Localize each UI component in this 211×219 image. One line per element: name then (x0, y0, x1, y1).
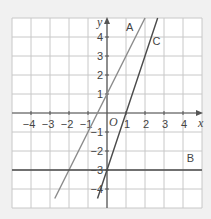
origin-label: O (109, 115, 118, 129)
x-tick-label: 4 (181, 118, 187, 130)
x-tick-label: 1 (124, 118, 130, 130)
coordinate-plot: −4−3−2−112344321−1−2−3−4xyO ABC (0, 0, 211, 219)
y-tick-label: 4 (97, 31, 103, 43)
x-axis-label: x (197, 116, 204, 130)
y-tick-label: 1 (97, 88, 103, 100)
x-tick-label: −2 (61, 118, 74, 130)
y-tick-label: 2 (97, 69, 103, 81)
line-label-a: A (126, 21, 134, 33)
y-tick-label: −1 (90, 126, 103, 138)
x-tick-label: −3 (42, 118, 55, 130)
line-label-c: C (153, 35, 161, 47)
y-tick-label: 3 (97, 50, 103, 62)
x-tick-label: 2 (143, 118, 149, 130)
y-axis-label: y (96, 15, 103, 29)
x-tick-label: 3 (162, 118, 168, 130)
x-tick-label: −4 (23, 118, 36, 130)
line-label-b: B (187, 152, 194, 164)
y-tick-label: −2 (90, 145, 103, 157)
